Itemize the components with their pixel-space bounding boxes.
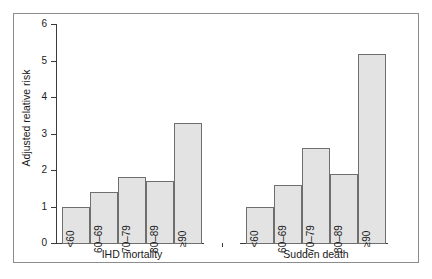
bar-label-holder: ≥90 bbox=[175, 199, 201, 243]
bar-label-holder: 80–89 bbox=[331, 199, 357, 243]
bar-label-holder: 70–79 bbox=[303, 199, 329, 243]
y-tick-6 bbox=[51, 24, 56, 25]
bar-label-holder: 60–69 bbox=[91, 199, 117, 243]
bar-group2-ge90: ≥90 bbox=[358, 54, 386, 244]
y-tick-3 bbox=[51, 134, 56, 135]
bar-group2-80-89: 80–89 bbox=[330, 174, 358, 244]
y-tick-1 bbox=[51, 207, 56, 208]
y-axis-title: Adjusted relative risk bbox=[20, 48, 32, 188]
y-tick-label-6: 6 bbox=[29, 19, 47, 29]
bar-label-holder: 60–69 bbox=[275, 199, 301, 243]
figure-container: 0 1 2 3 4 5 6 Adjusted relative risk bbox=[0, 0, 432, 279]
bar-group2-70-79: 70–79 bbox=[302, 148, 330, 244]
y-tick-0 bbox=[51, 243, 56, 244]
bar-group1-ge90: ≥90 bbox=[174, 123, 202, 245]
y-tick-label-1-wrap: 1 bbox=[27, 202, 47, 212]
group-label-ihd-mortality: IHD mortality bbox=[62, 248, 202, 260]
bar-label-holder: <60 bbox=[63, 199, 89, 243]
group-label-sudden-death: Sudden death bbox=[246, 248, 386, 260]
y-tick-5 bbox=[51, 61, 56, 62]
bar-group2-lt60: <60 bbox=[246, 207, 274, 245]
y-tick-label-0: 0 bbox=[29, 238, 47, 248]
bar-label-group2-lt60: <60 bbox=[250, 231, 260, 248]
y-tick-label-6-wrap: 6 bbox=[27, 19, 47, 29]
bar-label-group1-lt60: <60 bbox=[66, 231, 76, 248]
bar-group2-60-69: 60–69 bbox=[274, 185, 302, 244]
y-axis-line bbox=[56, 24, 57, 244]
bar-group1-60-69: 60–69 bbox=[90, 192, 118, 244]
group-separator-tick bbox=[222, 243, 223, 247]
bar-label-holder: 80–89 bbox=[147, 199, 173, 243]
bar-group1-lt60: <60 bbox=[62, 207, 90, 245]
chart-plot-area: 0 1 2 3 4 5 6 Adjusted relative risk bbox=[0, 0, 432, 279]
bar-label-holder: 70–79 bbox=[119, 199, 145, 243]
bar-group1-80-89: 80–89 bbox=[146, 181, 174, 244]
bar-label-group1-ge90: ≥90 bbox=[178, 231, 188, 248]
bar-label-group2-ge90: ≥90 bbox=[362, 231, 372, 248]
y-tick-4 bbox=[51, 97, 56, 98]
bar-group1-70-79: 70–79 bbox=[118, 177, 146, 244]
y-tick-label-0-wrap: 0 bbox=[27, 238, 47, 248]
bar-label-holder: ≥90 bbox=[359, 199, 385, 243]
bar-label-holder: <60 bbox=[247, 199, 273, 243]
y-tick-2 bbox=[51, 170, 56, 171]
y-tick-label-1: 1 bbox=[29, 202, 47, 212]
